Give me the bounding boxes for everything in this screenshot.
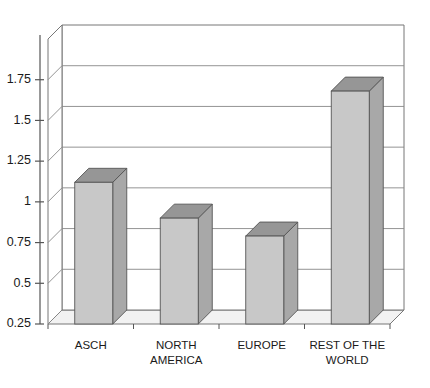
bar-side-face bbox=[113, 168, 127, 324]
bar-side-face bbox=[284, 222, 298, 324]
bar-3 bbox=[331, 77, 383, 324]
bar-0 bbox=[75, 168, 127, 324]
category-label-3: WORLD bbox=[326, 354, 369, 366]
x-axis-category-labels: ASCHNORTHAMERICAEUROPEREST OF THEWORLD bbox=[75, 339, 386, 366]
chart-container: 0.250.50.7511.251.51.75 ASCHNORTHAMERICA… bbox=[0, 0, 430, 388]
category-label-1: NORTH bbox=[156, 339, 197, 351]
y-tick-label-1: 1 bbox=[24, 194, 31, 208]
plot-left-wall bbox=[48, 25, 62, 324]
bar-front-face bbox=[331, 91, 369, 324]
bar-chart-3d: 0.250.50.7511.251.51.75 ASCHNORTHAMERICA… bbox=[0, 0, 430, 388]
bar-2 bbox=[246, 222, 298, 324]
bar-side-face bbox=[198, 204, 212, 324]
category-label-3: REST OF THE bbox=[309, 339, 385, 351]
y-axis-tick-labels: 0.250.50.7511.251.51.75 bbox=[7, 72, 31, 330]
category-label-0: ASCH bbox=[75, 339, 107, 351]
bar-front-face bbox=[246, 236, 284, 324]
x-axis-ticks bbox=[48, 324, 390, 329]
category-label-1: AMERICA bbox=[150, 354, 203, 366]
y-tick-label-1.25: 1.25 bbox=[7, 153, 31, 167]
bar-front-face bbox=[160, 218, 198, 324]
y-tick-label-1.75: 1.75 bbox=[7, 72, 31, 86]
category-label-2: EUROPE bbox=[237, 339, 286, 351]
bar-side-face bbox=[369, 77, 383, 324]
y-tick-label-0.25: 0.25 bbox=[7, 316, 31, 330]
y-tick-label-0.75: 0.75 bbox=[7, 235, 31, 249]
bar-1 bbox=[160, 204, 212, 324]
y-tick-label-1.5: 1.5 bbox=[14, 113, 31, 127]
bar-front-face bbox=[75, 182, 113, 324]
y-tick-label-0.5: 0.5 bbox=[14, 276, 31, 290]
